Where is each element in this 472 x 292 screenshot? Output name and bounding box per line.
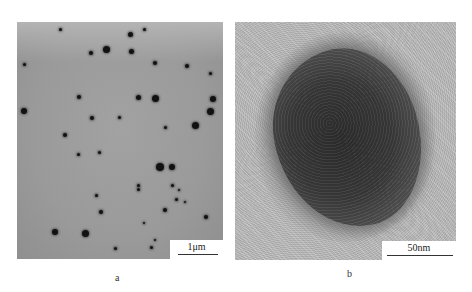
particle-dot — [143, 222, 145, 224]
particle-dot — [209, 72, 212, 75]
particle-dot — [207, 108, 214, 115]
particle-dot — [128, 32, 133, 37]
particle-dot — [192, 122, 199, 129]
particle-dot — [89, 51, 93, 55]
particle-dot — [204, 215, 208, 219]
particle-dot — [59, 28, 62, 31]
caption-b: b — [347, 268, 352, 279]
scale-bar-line — [178, 254, 218, 255]
particle-dot — [152, 95, 159, 102]
tem-image-panel-b: 50nm — [235, 22, 456, 260]
particle-dot — [156, 163, 164, 171]
particle-dot — [82, 230, 89, 237]
particle-dot — [98, 151, 101, 154]
scale-bar-b: 50nm — [382, 241, 456, 260]
top-fade — [17, 22, 223, 62]
particle-dot — [153, 61, 157, 65]
particle-dot — [136, 95, 141, 100]
tem-image-panel-a: 1μm — [17, 22, 223, 259]
scale-bar-line — [387, 255, 453, 256]
particle-dot — [103, 46, 110, 53]
particle-dot — [150, 246, 153, 249]
particle-dot — [129, 49, 134, 54]
particle-dot — [175, 198, 178, 201]
particle-dot — [63, 133, 67, 137]
particle-dot — [169, 164, 175, 170]
particle-dot — [90, 116, 94, 120]
particle-dot — [95, 194, 98, 197]
particle-dot — [137, 184, 140, 187]
scale-bar-a: 1μm — [170, 240, 223, 259]
scale-bar-label: 1μm — [170, 241, 223, 252]
particle-dot — [163, 208, 167, 212]
particle-dot — [77, 95, 81, 99]
particle-dot — [171, 184, 174, 187]
particle-dot — [52, 229, 58, 235]
particle-dot — [164, 126, 167, 129]
particle-dot — [118, 116, 121, 119]
particle-dot — [114, 247, 117, 250]
particle-dot — [154, 239, 156, 241]
particle-dot — [143, 28, 146, 31]
particle-dot — [185, 64, 189, 68]
particle-dot — [184, 201, 186, 203]
particle-dot — [137, 188, 140, 191]
particle-dot — [210, 96, 216, 102]
particle-dot — [99, 210, 103, 214]
particle-dot — [77, 153, 80, 156]
caption-a: a — [115, 272, 119, 283]
particle-dot — [178, 189, 180, 191]
particle-dot — [23, 63, 26, 66]
scale-bar-label: 50nm — [382, 242, 456, 253]
particle-dot — [21, 108, 27, 114]
